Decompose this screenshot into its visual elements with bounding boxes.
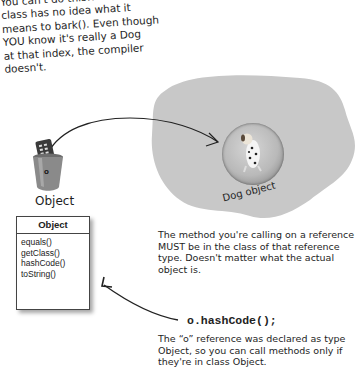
dog-figure (0, 0, 358, 384)
